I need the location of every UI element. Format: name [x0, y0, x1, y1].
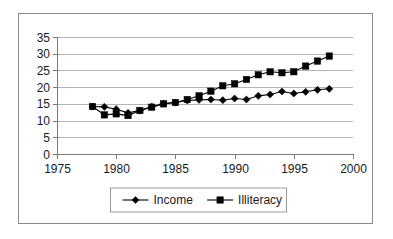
data-point-illiteracy-1988	[208, 88, 214, 94]
data-point-illiteracy-1996	[302, 63, 308, 69]
data-point-illiteracy-1987	[196, 93, 202, 99]
data-point-illiteracy-1984	[160, 101, 166, 107]
chart-frame: 05101520253035197519801985199019952000In…	[18, 13, 373, 224]
y-tick-label-15: 15	[37, 97, 51, 111]
data-point-income-1990	[231, 95, 238, 102]
data-point-income-1994	[278, 88, 285, 95]
data-point-income-1989	[219, 97, 226, 104]
data-point-income-1998	[326, 85, 333, 92]
legend-label-illiteracy: Illiteracy	[238, 193, 282, 207]
data-point-income-1992	[255, 92, 262, 99]
series-line-illiteracy	[93, 56, 330, 116]
data-point-illiteracy-1978	[89, 103, 95, 109]
data-point-illiteracy-1998	[326, 53, 332, 59]
data-point-illiteracy-1980	[113, 111, 119, 117]
data-point-illiteracy-1997	[314, 58, 320, 64]
x-tick-label-1985: 1985	[162, 162, 189, 176]
data-point-illiteracy-1995	[291, 69, 297, 75]
data-point-income-1991	[243, 96, 250, 103]
data-point-illiteracy-1992	[255, 72, 261, 78]
data-point-income-1993	[267, 91, 274, 98]
y-tick-label-0: 0	[43, 148, 50, 162]
data-point-illiteracy-1985	[172, 99, 178, 105]
data-point-illiteracy-1982	[137, 107, 143, 113]
data-point-illiteracy-1979	[101, 112, 107, 118]
y-tick-label-10: 10	[37, 114, 51, 128]
data-point-illiteracy-1990	[231, 81, 237, 87]
y-tick-label-20: 20	[37, 81, 51, 95]
data-point-illiteracy-1986	[184, 96, 190, 102]
data-point-income-1996	[302, 88, 309, 95]
x-tick-label-2000: 2000	[340, 162, 367, 176]
data-point-income-1988	[207, 96, 214, 103]
data-point-illiteracy-1983	[149, 104, 155, 110]
y-tick-label-5: 5	[43, 131, 50, 145]
gridlines-group: 05101520253035	[37, 31, 353, 162]
x-tick-label-1990: 1990	[222, 162, 249, 176]
x-tick-label-1975: 1975	[44, 162, 71, 176]
chart-plot-area: 05101520253035197519801985199019952000In…	[19, 14, 374, 225]
line-chart-svg: 05101520253035197519801985199019952000In…	[19, 14, 374, 225]
data-point-income-1995	[290, 90, 297, 97]
x-tick-label-1995: 1995	[281, 162, 308, 176]
legend-marker-illiteracy	[217, 197, 223, 203]
data-point-illiteracy-1993	[267, 69, 273, 75]
legend-label-income: Income	[154, 193, 194, 207]
x-tick-label-1980: 1980	[103, 162, 130, 176]
y-tick-label-25: 25	[37, 64, 51, 78]
y-tick-label-35: 35	[37, 31, 51, 45]
data-point-illiteracy-1981	[125, 112, 131, 118]
data-point-illiteracy-1989	[220, 83, 226, 89]
data-point-illiteracy-1994	[279, 70, 285, 76]
chart-legend: IncomeIlliteracy	[111, 188, 287, 212]
series-illiteracy	[89, 53, 332, 119]
data-point-illiteracy-1991	[243, 76, 249, 82]
y-tick-label-30: 30	[37, 47, 51, 61]
